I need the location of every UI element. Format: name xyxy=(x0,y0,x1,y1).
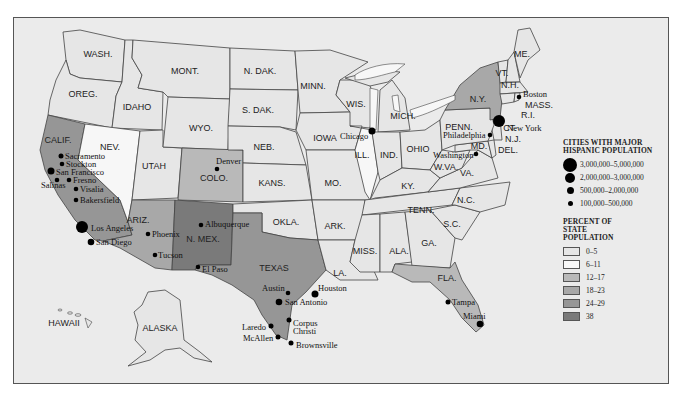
swatch-0-5 xyxy=(563,247,580,256)
city-label-salinas: Salinas xyxy=(41,180,66,190)
city-dot-miami xyxy=(477,321,484,328)
city-dot-san-diego xyxy=(88,239,95,246)
label-ala: ALA. xyxy=(389,246,409,256)
label-del: DEL. xyxy=(498,145,518,155)
swatch-38 xyxy=(563,312,580,321)
city-label-los-angeles: Los Angeles xyxy=(91,223,133,233)
city-dot-el-paso xyxy=(196,265,201,270)
city-label-miami: Miami xyxy=(463,311,486,321)
city-size-dot-icon xyxy=(563,158,577,172)
city-dot-boston xyxy=(517,95,522,100)
city-size-dot-icon xyxy=(568,201,573,206)
label-kans: KANS. xyxy=(258,178,285,188)
label-tenn: TENN. xyxy=(408,205,435,215)
legend-city-size-2: 2,000,000–3,000,000 xyxy=(563,171,668,184)
city-dot-washington xyxy=(474,152,479,157)
label-miss: MISS. xyxy=(353,246,378,256)
label-calif: CALIF. xyxy=(44,135,71,145)
label-wash: WASH. xyxy=(83,49,112,59)
label-iowa: IOWA xyxy=(313,133,337,143)
city-label-bakersfield: Bakersfield xyxy=(80,195,120,205)
label-ky: KY. xyxy=(401,181,414,191)
city-label-brownsville: Brownsville xyxy=(296,340,338,350)
city-dot-los-angeles xyxy=(76,221,88,233)
city-dot-albuquerque xyxy=(199,223,204,228)
label-me: ME. xyxy=(514,49,530,59)
label-ill: ILL. xyxy=(354,150,369,160)
city-label-denver: Denver xyxy=(216,156,241,166)
city-label-austin: Austin xyxy=(262,283,285,293)
label-mont: MONT. xyxy=(171,66,199,76)
city-label-san-diego: San Diego xyxy=(96,237,132,247)
label-nh: N.H. xyxy=(501,80,519,90)
city-dot-laredo xyxy=(269,324,274,329)
legend-city-size-3: 500,000–2,000,000 xyxy=(563,184,668,197)
city-dot-stockton xyxy=(60,162,65,167)
city-label-chicago: Chicago xyxy=(340,131,368,141)
city-label-new-york: New York xyxy=(507,123,542,133)
label-neb: NEB. xyxy=(253,142,274,152)
legend-bin-12-17: 12–17 xyxy=(563,271,668,284)
city-dot-san-francisco xyxy=(48,168,55,175)
label-ga: GA. xyxy=(421,238,437,248)
map-legend: CITIES WITH MAJOR HISPANIC POPULATION 3,… xyxy=(563,139,668,323)
label-va: VA. xyxy=(460,168,474,178)
label-sc: S.C. xyxy=(443,219,461,229)
city-label-tucson: Tucson xyxy=(158,250,183,260)
legend-bin-6-11: 6–11 xyxy=(563,258,668,271)
legend-city-size-4: 100,000–500,000 xyxy=(563,197,668,210)
city-label-san-antonio: San Antonio xyxy=(285,297,327,307)
city-label-el-paso: El Paso xyxy=(202,264,228,274)
city-label-albuquerque: Albuquerque xyxy=(205,219,250,229)
city-dot-mcallen xyxy=(276,335,281,340)
city-label-laredo: Laredo xyxy=(242,322,266,332)
city-dot-tucson xyxy=(153,253,158,258)
label-ndak: N. DAK. xyxy=(244,66,277,76)
label-colo: COLO. xyxy=(200,173,228,183)
city-dot-tampa xyxy=(446,300,451,305)
legend-bin-18-23: 18–23 xyxy=(563,284,668,297)
swatch-18-23 xyxy=(563,286,580,295)
label-ri: R.I. xyxy=(521,110,535,120)
label-wva: W.VA. xyxy=(434,162,458,172)
city-dot-philadelphia xyxy=(488,133,493,138)
swatch-6-11 xyxy=(563,260,580,269)
city-dot-sacramento xyxy=(59,154,64,159)
label-ark: ARK. xyxy=(324,221,345,231)
label-texas: TEXAS xyxy=(259,263,289,273)
city-label-washington: Washington xyxy=(433,150,474,160)
label-utah: UTAH xyxy=(142,161,166,171)
swatch-12-17 xyxy=(563,273,580,282)
city-label-philadelphia: Philadelphia xyxy=(443,130,486,140)
label-mass: MASS. xyxy=(525,100,553,110)
label-okla: OKLA. xyxy=(273,217,300,227)
city-size-dot-icon xyxy=(565,173,575,183)
city-size-dot-icon xyxy=(567,187,574,194)
label-nmex: N. MEX. xyxy=(186,234,220,244)
legend-city-size-1: 3,000,000–5,000,000 xyxy=(563,158,668,171)
percent-legend-title: PERCENT OF STATE POPULATION xyxy=(563,218,633,242)
label-sdak: S. DAK. xyxy=(242,105,274,115)
label-ind: IND. xyxy=(380,150,398,160)
label-vt: VT. xyxy=(495,68,508,78)
city-dot-chicago xyxy=(369,128,376,135)
label-wis: WIS. xyxy=(346,99,366,109)
city-dot-fresno xyxy=(67,178,72,183)
label-mo: MO. xyxy=(325,178,342,188)
city-label-tampa: Tampa xyxy=(452,297,475,307)
city-dot-corpus-christi xyxy=(287,318,292,323)
legend-bin-24-29: 24–29 xyxy=(563,297,668,310)
label-wyo: WYO. xyxy=(189,123,213,133)
state-ct xyxy=(500,93,515,104)
label-hawaii: HAWAII xyxy=(48,318,79,328)
city-dot-san-antonio xyxy=(276,299,283,306)
city-dot-denver xyxy=(215,167,220,172)
city-label-phoenix: Phoenix xyxy=(152,229,181,239)
label-ny: N.Y. xyxy=(470,94,486,104)
city-dot-visalia xyxy=(74,187,79,192)
city-dot-brownsville xyxy=(289,341,294,346)
label-alaska: ALASKA xyxy=(142,323,177,333)
city-label-visalia: Visalia xyxy=(80,184,104,194)
label-ohio: OHIO xyxy=(406,144,429,154)
city-dot-new-york xyxy=(493,115,505,127)
